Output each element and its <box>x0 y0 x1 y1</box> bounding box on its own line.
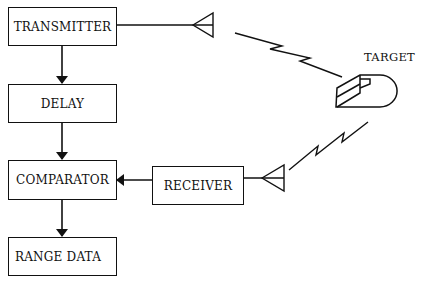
comparator-block: COMPARATOR <box>8 160 117 200</box>
receiver-label: RECEIVER <box>164 179 233 193</box>
delay-block: DELAY <box>8 84 117 123</box>
range-data-label: RANGE DATA <box>15 250 101 264</box>
target-icon <box>336 75 397 107</box>
comparator-label: COMPARATOR <box>16 173 109 187</box>
target-label: TARGET <box>364 50 415 64</box>
delay-label: DELAY <box>41 97 84 111</box>
transmitter-block: TRANSMITTER <box>8 7 117 46</box>
receiver-block: RECEIVER <box>152 166 244 205</box>
outgoing-signal-zigzag <box>235 33 342 77</box>
return-signal-zigzag <box>289 122 368 170</box>
range-data-block: RANGE DATA <box>8 237 117 276</box>
transmitter-label: TRANSMITTER <box>14 20 112 34</box>
